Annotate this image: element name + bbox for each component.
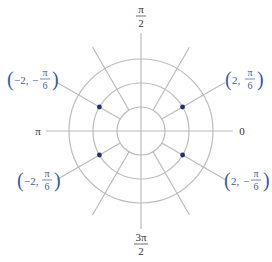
radial-line xyxy=(57,83,120,120)
left-paren: ( xyxy=(224,169,231,192)
label-denominator: 6 xyxy=(45,181,50,192)
label-numerator: π xyxy=(253,168,258,179)
label-denominator: 6 xyxy=(248,80,253,91)
point-label-2-neg-pi-over-6: ( 2, − π 6 ) xyxy=(224,168,270,192)
radial-line xyxy=(93,152,130,215)
axis-label-bottom-numerator: 3π xyxy=(135,231,147,243)
label-prefix: −2, xyxy=(14,74,29,86)
radial-line xyxy=(162,83,225,120)
label-sign: − xyxy=(32,74,38,86)
point-label-neg2-pi-over-6: ( −2, π 6 ) xyxy=(17,168,61,192)
radial-line xyxy=(57,143,120,180)
label-denominator: 6 xyxy=(43,80,48,91)
right-paren: ) xyxy=(52,68,59,91)
right-paren: ) xyxy=(263,169,270,192)
label-numerator: π xyxy=(42,67,47,78)
left-paren: ( xyxy=(225,68,232,91)
point-neg2-pi6 xyxy=(97,153,102,158)
point-label-neg2-neg-pi-over-6: ( −2, − π 6 ) xyxy=(7,67,59,91)
point-2-pi6 xyxy=(180,105,185,110)
label-numerator: π xyxy=(247,67,252,78)
point-2-negpi6 xyxy=(180,153,185,158)
label-denominator: 6 xyxy=(254,181,259,192)
radial-line xyxy=(153,47,190,110)
axis-label-top-numerator: π xyxy=(138,3,144,15)
axis-label-bottom-denominator: 2 xyxy=(138,245,144,257)
point-neg2-negpi6 xyxy=(97,105,102,110)
right-paren: ) xyxy=(257,68,264,91)
axis-label-3pi-over-2: 3π 2 xyxy=(134,231,148,257)
axis-label-pi: π xyxy=(35,125,41,137)
label-prefix: −2, xyxy=(24,175,39,187)
left-paren: ( xyxy=(17,169,24,192)
label-prefix: 2, xyxy=(231,175,240,187)
radial-line xyxy=(93,47,130,110)
label-numerator: π xyxy=(44,168,49,179)
axis-label-pi-over-2: π 2 xyxy=(136,3,146,29)
axis-label-zero: 0 xyxy=(239,125,245,137)
polar-axes xyxy=(46,33,233,229)
radial-line xyxy=(162,143,225,180)
polar-coordinate-diagram: π 2 3π 2 π 0 ( 2, π 6 ) ( −2, − π 6 ) ( … xyxy=(0,0,272,262)
axis-label-top-denominator: 2 xyxy=(138,17,144,29)
label-sign: − xyxy=(243,175,249,187)
left-paren: ( xyxy=(7,68,14,91)
point-label-2-pi-over-6: ( 2, π 6 ) xyxy=(225,67,264,91)
radial-line xyxy=(153,152,190,215)
right-paren: ) xyxy=(54,169,61,192)
label-prefix: 2, xyxy=(232,74,241,86)
